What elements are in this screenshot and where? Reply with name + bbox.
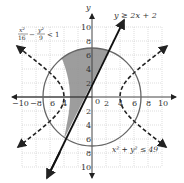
- circle-label: x² + y² ≤ 49: [112, 145, 158, 154]
- svg-text:10: 10: [81, 23, 91, 32]
- svg-text:8: 8: [86, 37, 91, 46]
- svg-text:−: −: [29, 31, 35, 39]
- svg-text:8: 8: [146, 99, 151, 108]
- svg-text:10: 10: [81, 163, 91, 172]
- svg-text:9: 9: [39, 34, 43, 41]
- svg-text:−10: −10: [12, 99, 29, 108]
- line-curve-bottom-arrow: [47, 152, 60, 178]
- hyperbola-right-top-arrow: [162, 46, 167, 50]
- svg-text:4: 4: [62, 99, 67, 108]
- svg-text:16: 16: [18, 34, 26, 41]
- svg-text:10: 10: [158, 99, 168, 108]
- svg-text:6: 6: [86, 135, 91, 144]
- svg-text:4: 4: [86, 121, 91, 130]
- svg-text:2: 2: [104, 99, 109, 108]
- line-label: y ≥ 2x + 2: [113, 11, 157, 20]
- svg-text:6: 6: [132, 99, 137, 108]
- svg-text:4: 4: [86, 65, 91, 74]
- hyperbola-left-top-arrow: [17, 46, 22, 50]
- graph-canvas: y y ≥ 2x + 2 x² + y² ≤ 49 x² 16 − y² 9 <…: [0, 0, 184, 183]
- svg-text:6: 6: [86, 51, 91, 60]
- svg-text:2: 2: [86, 79, 91, 88]
- svg-text:6: 6: [50, 99, 55, 108]
- hyperbola-label: x² 16 − y² 9 < 1: [18, 26, 60, 41]
- svg-text:4: 4: [118, 99, 123, 108]
- svg-text:−8: −8: [30, 99, 42, 108]
- svg-text:y²: y²: [37, 26, 44, 34]
- svg-text:8: 8: [86, 149, 91, 158]
- y-axis-label: y: [85, 3, 91, 12]
- svg-text:2: 2: [86, 107, 91, 116]
- svg-text:< 1: < 1: [47, 31, 60, 39]
- svg-text:0: 0: [95, 97, 100, 106]
- svg-text:x²: x²: [19, 26, 25, 33]
